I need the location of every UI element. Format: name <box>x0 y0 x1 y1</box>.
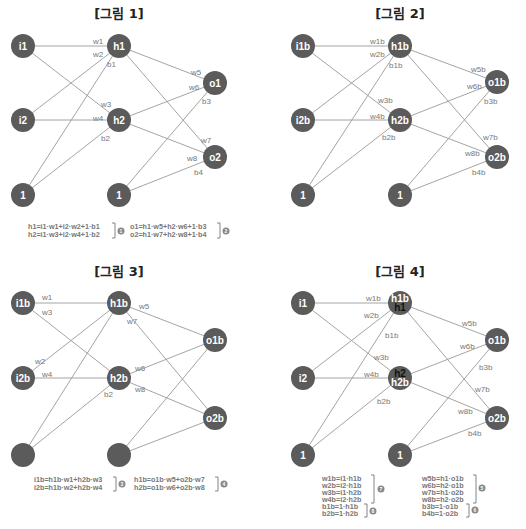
svg-text:o2=h1·w7+h2·w8+1·b4: o2=h1·w7+h2·w8+1·b4 <box>130 230 207 239</box>
node-i1: i1 <box>291 291 315 315</box>
svg-text:b2b=1·h2b: b2b=1·h2b <box>322 509 359 518</box>
svg-text:8: 8 <box>372 508 375 514</box>
node-o1b: o1b <box>485 70 509 94</box>
edge-label-b2b: b2b <box>377 397 391 406</box>
node-h1b: h1b <box>388 34 412 58</box>
svg-text:h2b: h2b <box>391 115 409 126</box>
edge-label-b1b: b1b <box>385 331 399 340</box>
svg-text:i1b: i1b <box>296 41 310 52</box>
edge-label-w8b: w8b <box>457 407 473 416</box>
svg-text:4: 4 <box>223 481 226 487</box>
edge-label-b3: b3 <box>202 97 211 106</box>
figure-3: [그림 3] w1 w3 w2 w4 b2 w5 w7 w6 w8 i1b i2… <box>11 264 228 492</box>
figure-1: [그림 1] w1 w2 b1 w3 w4 b2 w5 w6 b3 w7 w8 … <box>11 6 230 239</box>
svg-text:h2b: h2b <box>110 373 128 384</box>
svg-text:1: 1 <box>20 190 26 201</box>
svg-text:h2b: h2b <box>391 377 409 388</box>
svg-text:1: 1 <box>300 450 306 461</box>
svg-text:h2: h2 <box>113 115 125 126</box>
edge-label-w2: w2 <box>92 50 104 59</box>
node-o1b: o1b <box>203 328 227 352</box>
svg-text:3: 3 <box>121 481 124 487</box>
edge-label-w3b: w3b <box>377 96 393 105</box>
svg-text:i1: i1 <box>19 41 28 52</box>
svg-text:6: 6 <box>474 507 477 513</box>
svg-text:o1b: o1b <box>488 335 506 346</box>
node-o2b: o2b <box>485 145 509 169</box>
node-i1b: i1b <box>291 34 315 58</box>
svg-text:o1b: o1b <box>488 77 506 88</box>
svg-text:h1b: h1b <box>391 41 409 52</box>
svg-text:i2b: i2b <box>296 115 310 126</box>
svg-text:5: 5 <box>481 485 484 491</box>
node-h2b: h2b <box>107 366 131 390</box>
edge-label-w4b: w4b <box>363 370 379 379</box>
formula-group-8: b1b=1·h1b b2b=1·h2b 8 <box>322 502 377 518</box>
edge-label-w2: w2 <box>34 357 46 366</box>
node-o2b: o2b <box>485 406 509 430</box>
svg-text:h2=i1·w3+i2·w4+1·b2: h2=i1·w3+i2·w4+1·b2 <box>28 230 100 239</box>
edge-label-w4: w4 <box>92 114 104 123</box>
node-bias-input: 1 <box>291 183 315 207</box>
node-o2b: o2b <box>203 406 227 430</box>
svg-text:7: 7 <box>380 486 383 492</box>
node-h2b: h2b <box>388 108 412 132</box>
node-bias-input: 1 <box>11 183 35 207</box>
svg-text:o1: o1 <box>209 78 221 89</box>
svg-text:i2: i2 <box>19 115 28 126</box>
edge-label-w3b: w3b <box>373 353 389 362</box>
edge-label-w6b: w6b <box>459 342 475 351</box>
node-h2-h2b: h2 h2b <box>388 366 412 390</box>
svg-text:b4b=1·o2b: b4b=1·o2b <box>422 509 459 518</box>
edge-label-w5b: w5b <box>461 319 477 328</box>
node-i1: i1 <box>11 34 35 58</box>
node-o1: o1 <box>203 71 227 95</box>
formula-group-6: b3b=1·o1b b4b=1·o2b 6 <box>422 502 479 518</box>
edge-label-b1b: b1b <box>389 61 403 70</box>
svg-text:o2b: o2b <box>488 152 506 163</box>
svg-text:1: 1 <box>120 228 123 234</box>
edge-label-w1: w1 <box>41 293 53 302</box>
edge-label-w7b: w7b <box>474 385 490 394</box>
svg-text:o2b: o2b <box>488 413 506 424</box>
edge-label-b3b: b3b <box>484 97 498 106</box>
node-bias-input: 1 <box>291 443 315 467</box>
edge-label-b4b: b4b <box>468 429 482 438</box>
svg-text:i2b: i2b <box>16 373 30 384</box>
edge-label-w5: w5 <box>138 302 150 311</box>
edge-label-w1b: w1b <box>365 294 381 303</box>
edge-label-b4b: b4b <box>472 168 486 177</box>
node-i1b: i1b <box>11 291 35 315</box>
node-bias-hidden: 1 <box>388 443 412 467</box>
svg-text:i1: i1 <box>299 298 308 309</box>
edge-label-w2b: w2b <box>363 311 379 320</box>
svg-text:h1: h1 <box>113 41 125 52</box>
formula-group-5: w5b=h1·o1b w6b=h2·o1b w7b=h1·o2b w8b=h2·… <box>421 474 486 504</box>
node-o2: o2 <box>203 145 227 169</box>
svg-text:o2: o2 <box>209 152 221 163</box>
edge-label-b3b: b3b <box>479 363 493 372</box>
edge-label-w1b: w1b <box>369 37 385 46</box>
figure-4: [그림 4] w1b w2b b1b w3b w4b b2b w5b w6b b… <box>291 264 509 518</box>
node-bias-input <box>11 443 35 467</box>
svg-text:1: 1 <box>397 190 403 201</box>
node-i2b: i2b <box>11 366 35 390</box>
edge-label-b2b: b2b <box>382 133 396 142</box>
formula-group-4: h1b=o1b·w5+o2b·w7 h2b=o1b·w6+o2b·w8 4 <box>134 475 228 492</box>
edge-label-b2: b2 <box>101 134 110 143</box>
edge-label-w6: w6 <box>134 364 146 373</box>
edge-label-w8: w8 <box>186 154 198 163</box>
figure-title: [그림 4] <box>375 264 424 279</box>
svg-text:1: 1 <box>397 450 403 461</box>
node-o1b: o1b <box>485 328 509 352</box>
node-bias-hidden <box>107 443 131 467</box>
svg-text:1: 1 <box>300 190 306 201</box>
edge-label-b4: b4 <box>194 168 203 177</box>
edge-label-b1: b1 <box>107 60 116 69</box>
svg-text:i2: i2 <box>299 373 308 384</box>
svg-text:o1b: o1b <box>206 335 224 346</box>
svg-text:i1b: i1b <box>16 298 30 309</box>
figure-title: [그림 3] <box>94 264 143 279</box>
edge-label-w6: w6 <box>188 83 200 92</box>
node-bias-hidden: 1 <box>107 183 131 207</box>
